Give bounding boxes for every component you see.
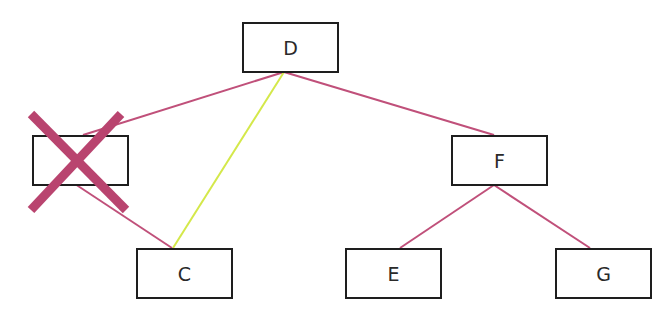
node-label: G [596,263,611,285]
node-label: C [178,263,191,285]
node-e[interactable]: E [345,248,442,299]
edge-b-c [75,184,172,248]
node-f[interactable]: F [451,135,548,186]
edge-f-e [400,185,494,248]
node-g[interactable]: G [555,248,652,299]
node-label: F [494,150,505,172]
node-label: D [283,37,298,59]
tree-diagram: D F C E G [0,0,672,310]
edge-d-b [83,72,284,135]
edge-f-g [494,185,590,248]
edge-d-f [284,72,494,135]
edge-d-c-highlighted [173,72,284,248]
node-b-deleted[interactable] [32,135,129,186]
node-d[interactable]: D [242,22,339,73]
node-label: E [387,263,399,285]
node-c[interactable]: C [136,248,233,299]
